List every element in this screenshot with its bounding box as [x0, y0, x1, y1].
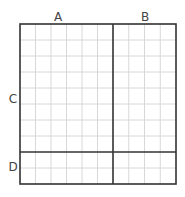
minor-gridlines: [20, 24, 176, 184]
partition-grid: [0, 0, 185, 197]
